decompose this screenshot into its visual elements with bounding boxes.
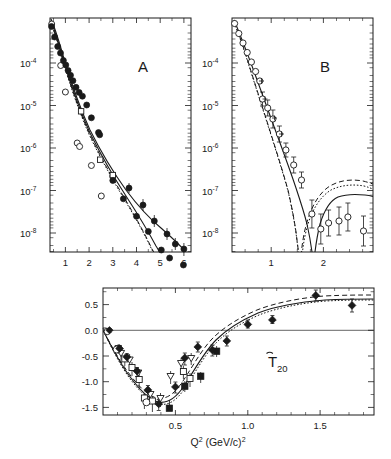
panel-b-errorbars — [260, 92, 366, 246]
panel-b-yticklabel-1: 10-5 — [202, 100, 219, 112]
panel-a-y-ticklabels: 10-4 10-5 10-6 10-7 10-8 — [20, 57, 37, 239]
panel-t20-observable-label: T 20 — [267, 352, 288, 374]
panel-t20-y-minor-ticks — [103, 292, 374, 395]
panel-a-curve-solid — [51, 19, 186, 252]
panel-a-frame — [50, 18, 191, 252]
panel-t20-xticklabel-0: 0.5 — [169, 420, 182, 431]
panel-t20-yticklabel-0: 0.5 — [85, 299, 98, 310]
figure-root: 10-4 10-5 10-6 10-7 10-8 1 2 3 4 5 6 A — [0, 0, 391, 459]
panel-b-yticklabel-4: 10-8 — [202, 227, 219, 239]
panel-a-xticklabel-4: 5 — [158, 257, 163, 268]
panel-t20-yticklabel-4: -1.5 — [82, 402, 98, 413]
panel-a-y-major-ticks — [50, 63, 191, 233]
panel-t20-y-ticklabels: 0.5 0.0 -0.5 -1.0 -1.5 — [82, 299, 98, 413]
panel-b-curve-dotted — [234, 23, 299, 257]
panel-a-yticklabel-2: 10-6 — [20, 142, 37, 154]
panel-a-x-major-ticks — [65, 18, 183, 252]
panel-t20-curve-solid — [104, 299, 374, 402]
panel-t20-yticklabel-1: 0.0 — [85, 325, 98, 336]
figure-canvas: 10-4 10-5 10-6 10-7 10-8 1 2 3 4 5 6 A — [0, 0, 391, 459]
panel-a-curve-solid-2 — [51, 21, 163, 258]
panel-t20-x-ticklabels: 0.5 1.0 1.5 — [169, 420, 327, 431]
panel-b-x-ticklabels: 1 2 — [269, 257, 326, 268]
panel-b-curves — [234, 20, 373, 257]
panel-t20-curve-dotted — [104, 300, 374, 404]
panel-b-yticklabel-3: 10-7 — [202, 185, 219, 197]
panel-b-curve-solid-node — [315, 194, 374, 256]
panel-a-curves — [51, 19, 186, 262]
panel-a-yticklabel-3: 10-7 — [20, 185, 37, 197]
panel-t20-yticklabel-3: -1.0 — [82, 376, 98, 387]
panel-b-curve-dashed — [234, 22, 299, 256]
panel-t20-observable-base: T — [268, 353, 277, 370]
panel-b-yticklabel-0: 10-4 — [202, 57, 219, 69]
panel-a-xticklabel-1: 2 — [86, 257, 91, 268]
panel-a-yticklabel-4: 10-8 — [20, 227, 37, 239]
panel-a-xticklabel-2: 3 — [110, 257, 115, 268]
panel-t20-xaxis-title: Q2 (GeV/c)2 — [190, 436, 245, 448]
panel-t20-yticklabel-2: -0.5 — [82, 351, 98, 362]
panel-t20-observable-subscript: 20 — [277, 363, 288, 374]
panel-a: 10-4 10-5 10-6 10-7 10-8 1 2 3 4 5 6 A — [20, 18, 191, 268]
panel-b: 10-4 10-5 10-6 10-7 10-8 1 2 B — [202, 18, 373, 268]
panel-t20: 0.5 0.0 -0.5 -1.0 -1.5 0.5 1.0 1.5 Q2 (G… — [82, 288, 374, 448]
panel-a-letter: A — [138, 58, 148, 75]
panel-b-xticklabel-0: 1 — [269, 257, 274, 268]
panel-b-xticklabel-1: 2 — [321, 257, 326, 268]
panel-b-y-ticklabels: 10-4 10-5 10-6 10-7 10-8 — [202, 57, 219, 239]
panel-a-xticklabel-3: 4 — [134, 257, 139, 268]
panel-t20-x-major-ticks — [175, 288, 320, 415]
panel-t20-xticklabel-2: 1.5 — [313, 420, 326, 431]
panel-b-open-circles — [232, 20, 367, 234]
panel-t20-curve-dashed — [104, 295, 374, 398]
panel-b-yticklabel-2: 10-6 — [202, 142, 219, 154]
panel-b-letter: B — [320, 58, 330, 75]
panel-t20-curves — [104, 295, 374, 404]
panel-a-yticklabel-1: 10-5 — [20, 100, 37, 112]
panel-a-xticklabel-0: 1 — [63, 257, 68, 268]
panel-a-yticklabel-0: 10-4 — [20, 57, 37, 69]
panel-b-frame — [232, 18, 373, 252]
panel-a-y-minor-ticks — [50, 25, 191, 251]
panel-t20-filled-diamonds — [106, 292, 356, 408]
panel-t20-x-minor-ticks — [118, 288, 364, 415]
panel-t20-xticklabel-1: 1.0 — [241, 420, 254, 431]
